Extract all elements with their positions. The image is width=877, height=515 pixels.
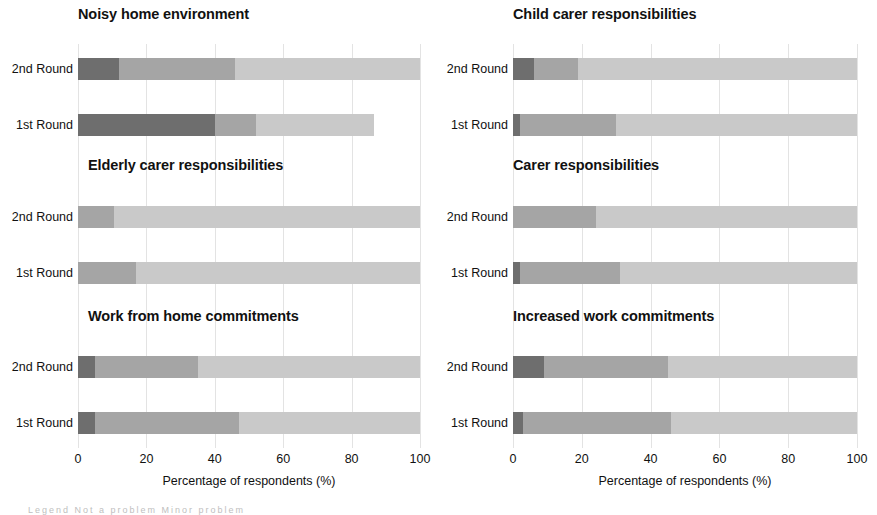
bar-segment-major-problem [513, 58, 534, 80]
panel-title: Work from home commitments [88, 308, 299, 324]
x-axis-tick-label: 20 [575, 452, 589, 466]
bar-segment-major-problem [78, 58, 119, 80]
legend-strip: Legend Not a problem Minor problem [28, 505, 328, 515]
bar-segment-major-problem [513, 356, 544, 378]
gridline [352, 44, 353, 448]
gridline [582, 44, 583, 448]
x-axis-tick-label: 0 [510, 452, 517, 466]
row-label-1st-round: 1st Round [451, 118, 508, 132]
bar-segment-not-a-problem [671, 412, 857, 434]
panel-title: Increased work commitments [513, 308, 714, 324]
x-axis-tick-label: 40 [208, 452, 222, 466]
bar-segment-not-a-problem [198, 356, 420, 378]
x-axis-tick-label: 20 [139, 452, 153, 466]
x-axis-label: Percentage of respondents (%) [78, 474, 420, 488]
row-label-1st-round: 1st Round [451, 416, 508, 430]
stacked-bar [513, 412, 857, 434]
stacked-bar [78, 206, 420, 228]
row-label-2nd-round: 2nd Round [447, 62, 508, 76]
stacked-bar [78, 262, 420, 284]
stacked-bar [513, 206, 857, 228]
bar-segment-moderate-problem [95, 412, 239, 434]
bar-segment-moderate-problem [513, 206, 596, 228]
x-axis-tick-label: 100 [847, 452, 868, 466]
gridline [215, 44, 216, 448]
bar-segment-major-problem [78, 412, 95, 434]
panel-title: Child carer responsibilities [513, 6, 696, 22]
bar-segment-not-a-problem [256, 114, 374, 136]
gridline [513, 44, 514, 448]
x-axis-tick-label: 40 [644, 452, 658, 466]
x-axis-tick-label: 0 [75, 452, 82, 466]
x-axis-tick-label: 80 [345, 452, 359, 466]
bar-segment-moderate-problem [119, 58, 235, 80]
bar-segment-moderate-problem [534, 58, 579, 80]
stacked-bar [513, 114, 857, 136]
row-label-1st-round: 1st Round [16, 118, 73, 132]
row-label-1st-round: 1st Round [16, 266, 73, 280]
bar-segment-not-a-problem [578, 58, 857, 80]
bar-segment-not-a-problem [235, 58, 420, 80]
bar-segment-not-a-problem [668, 356, 857, 378]
bar-segment-major-problem [78, 114, 215, 136]
bar-segment-moderate-problem [78, 262, 136, 284]
row-label-2nd-round: 2nd Round [447, 360, 508, 374]
row-label-2nd-round: 2nd Round [12, 62, 73, 76]
gridline [857, 44, 858, 448]
bar-segment-moderate-problem [78, 206, 114, 228]
figure-stacked-bar-panels: Noisy home environment2nd Round1st Round… [0, 0, 877, 515]
bar-segment-not-a-problem [616, 114, 857, 136]
x-axis-tick-label: 60 [712, 452, 726, 466]
gridline [283, 44, 284, 448]
bar-segment-moderate-problem [215, 114, 256, 136]
stacked-bar [513, 356, 857, 378]
row-label-2nd-round: 2nd Round [12, 360, 73, 374]
bar-segment-not-a-problem [596, 206, 857, 228]
gridline [420, 44, 421, 448]
x-axis-tick-label: 60 [276, 452, 290, 466]
stacked-bar [513, 262, 857, 284]
panel-title: Noisy home environment [78, 6, 249, 22]
gridline [788, 44, 789, 448]
x-axis-label: Percentage of respondents (%) [513, 474, 857, 488]
bar-segment-moderate-problem [544, 356, 668, 378]
x-axis-tick-label: 100 [410, 452, 431, 466]
panel-title: Elderly carer responsibilities [88, 157, 283, 173]
bar-segment-major-problem [513, 412, 523, 434]
stacked-bar [78, 58, 420, 80]
gridline [78, 44, 79, 448]
stacked-bar [78, 114, 374, 136]
bar-segment-major-problem [513, 114, 520, 136]
bar-segment-major-problem [78, 356, 95, 378]
stacked-bar [78, 356, 420, 378]
bar-segment-not-a-problem [239, 412, 420, 434]
bar-segment-not-a-problem [620, 262, 857, 284]
stacked-bar [78, 412, 420, 434]
gridline [146, 44, 147, 448]
gridline [719, 44, 720, 448]
row-label-2nd-round: 2nd Round [12, 210, 73, 224]
bar-segment-moderate-problem [520, 262, 620, 284]
row-label-1st-round: 1st Round [451, 266, 508, 280]
bar-segment-moderate-problem [523, 412, 671, 434]
bar-segment-not-a-problem [114, 206, 420, 228]
row-label-1st-round: 1st Round [16, 416, 73, 430]
panel-title: Carer responsibilities [513, 157, 659, 173]
bar-segment-moderate-problem [95, 356, 198, 378]
bar-segment-moderate-problem [520, 114, 616, 136]
gridline [651, 44, 652, 448]
bar-segment-not-a-problem [136, 262, 420, 284]
stacked-bar [513, 58, 857, 80]
x-axis-tick-label: 80 [781, 452, 795, 466]
bar-segment-major-problem [513, 262, 520, 284]
row-label-2nd-round: 2nd Round [447, 210, 508, 224]
